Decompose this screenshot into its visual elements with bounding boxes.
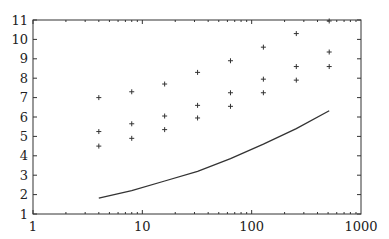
y-tick-label: 4: [20, 148, 28, 163]
plot-frame: [33, 20, 361, 214]
y-axis-labels: 1234567891011: [11, 13, 28, 222]
plus-marker: [129, 136, 134, 141]
plus-marker: [294, 31, 299, 36]
y-tick-label: 9: [20, 51, 28, 66]
plus-marker: [228, 90, 233, 95]
plus-marker: [261, 45, 266, 50]
plus-marker: [96, 144, 101, 149]
y-tick-label: 1: [20, 207, 28, 222]
plus-marker: [327, 50, 332, 55]
plus-marker: [195, 115, 200, 120]
plus-marker: [327, 18, 332, 23]
x-tick-label: 100: [239, 219, 264, 234]
plus-marker: [228, 104, 233, 109]
y-tick-label: 7: [20, 90, 28, 105]
plus-marker: [294, 64, 299, 69]
plus-marker: [261, 77, 266, 82]
x-axis-labels: 1101001000: [29, 219, 378, 234]
plus-marker: [195, 103, 200, 108]
y-tick-label: 6: [20, 110, 28, 125]
plus-marker: [261, 90, 266, 95]
chart: 1234567891011 1101001000: [0, 0, 389, 239]
plus-marker: [162, 82, 167, 87]
plus-marker: [294, 78, 299, 83]
plus-marker: [327, 64, 332, 69]
x-tick-label: 10: [134, 219, 151, 234]
x-tick-label: 1000: [344, 219, 377, 234]
plus-marker: [162, 114, 167, 119]
plus-marker: [162, 127, 167, 132]
plus-marker: [96, 95, 101, 100]
y-tick-label: 2: [20, 187, 28, 202]
y-tick-label: 5: [20, 129, 28, 144]
x-tick-label: 1: [29, 219, 37, 234]
plus-marker: [96, 129, 101, 134]
plus-marker: [228, 58, 233, 63]
y-tick-label: 3: [20, 168, 28, 183]
axis-ticks: [33, 20, 361, 214]
y-tick-label: 11: [11, 13, 28, 28]
y-tick-label: 8: [20, 71, 28, 86]
plus-marker: [195, 70, 200, 75]
plus-marker: [129, 89, 134, 94]
plus-marker: [129, 121, 134, 126]
y-tick-label: 10: [11, 32, 28, 47]
